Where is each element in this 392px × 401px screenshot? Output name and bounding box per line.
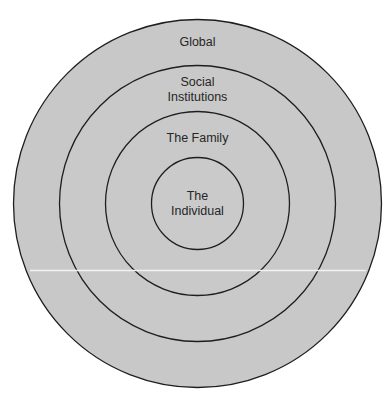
label-individual-line2: Individual	[171, 204, 224, 218]
label-individual-line1: The	[187, 189, 209, 203]
label-social-line2: Institutions	[168, 90, 228, 104]
label-global: Global	[179, 35, 215, 49]
label-social-line1: Social	[180, 75, 214, 89]
concentric-circles-diagram: Global Social Institutions The Family Th…	[0, 0, 392, 401]
label-the-family: The Family	[167, 131, 230, 145]
